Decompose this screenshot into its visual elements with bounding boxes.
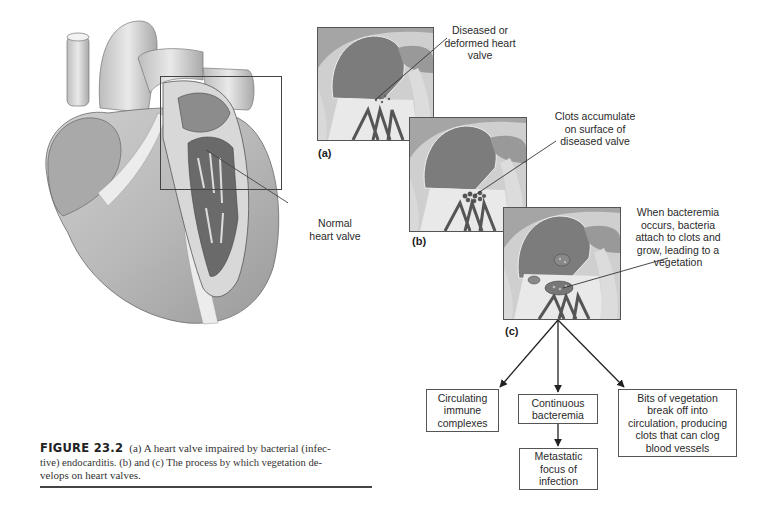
flow-box-immune-complexes: Circulating immune complexes [426,389,499,432]
flow-box-vegetation-emboli: Bits of vegetation break off into circul… [618,389,737,457]
figure-caption: FIGURE 23.2(a) A heart valve impaired by… [40,442,375,483]
caption-rule [40,486,372,488]
figure-number: FIGURE 23.2 [40,441,123,455]
flow-box-continuous-bacteremia: Continuous bacteremia [518,394,598,424]
flow-box-metastatic-focus: Metastatic focus of infection [519,448,598,490]
